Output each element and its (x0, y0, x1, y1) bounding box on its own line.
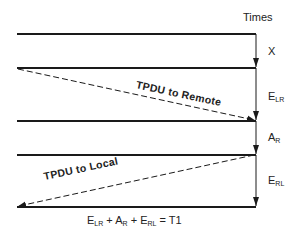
interval-label-erl: ERL (268, 174, 284, 187)
tpdu-to-remote-arrow (18, 69, 254, 120)
times-label: Times (243, 11, 273, 23)
formula: ELR + AR + ERL = T1 (87, 214, 182, 227)
interval-label-x: X (268, 45, 275, 57)
interval-label-ar: AR (268, 131, 280, 144)
tpdu-to-local-arrow (19, 155, 254, 206)
interval-label-elr: ELR (268, 90, 284, 103)
timing-diagram (0, 0, 298, 241)
